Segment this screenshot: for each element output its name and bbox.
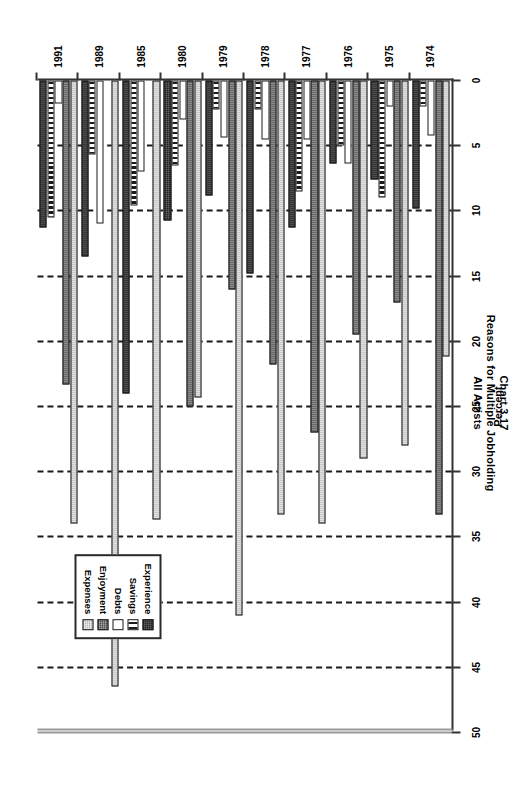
bar-1980-expenses (194, 80, 201, 397)
bar-1989-savings (88, 80, 95, 154)
value-tick-45 (451, 666, 460, 668)
bar-1977-enjoyment (310, 80, 317, 432)
bar-1974-expenses (442, 80, 449, 356)
bar-1991-expenses (70, 80, 77, 523)
value-tick-label-45: 45 (470, 661, 481, 672)
year-group-1976: 1976 (327, 80, 368, 728)
bar-1976-experience (329, 80, 336, 163)
legend-swatch-expenses (82, 619, 93, 630)
bar-1978-debts (261, 80, 268, 139)
category-label-1975: 1975 (383, 45, 394, 67)
figure: Chart 3.17 Reasons for Multiple Jobholdi… (0, 0, 515, 805)
legend-item-debts: Debts (112, 563, 123, 630)
value-tick-label-25: 25 (470, 400, 481, 411)
year-group-1991: 1991 (37, 80, 78, 728)
bar-1976-enjoyment (352, 80, 359, 334)
year-group-1980: 1980 (161, 80, 202, 728)
value-tick-label-15: 15 (470, 270, 481, 281)
bar-1978-enjoyment (269, 80, 276, 364)
bar-1976-expenses (359, 80, 366, 458)
bar-1974-debts (427, 80, 434, 135)
bar-1979-enjoyment (228, 80, 235, 289)
bar-1980-savings (171, 80, 178, 165)
bar-1985-expenses (152, 80, 159, 519)
category-label-1985: 1985 (135, 45, 146, 67)
category-tick-1985 (118, 72, 120, 80)
bar-1989-experience (81, 80, 88, 256)
category-label-1979: 1979 (218, 45, 229, 67)
legend-item-savings: Savings (127, 563, 138, 630)
legend-label-debts: Debts (112, 587, 123, 613)
bar-1985-savings (130, 80, 137, 205)
bar-1974-savings (419, 80, 426, 106)
bar-1977-experience (288, 80, 295, 227)
legend-label-savings: Savings (127, 577, 138, 613)
chart-page: Chart 3.17 Reasons for Multiple Jobholdi… (0, 0, 515, 805)
value-tick-25 (451, 405, 460, 407)
bar-1979-expenses (235, 80, 242, 615)
value-tick-10 (451, 209, 460, 211)
year-group-1974: 1974 (410, 80, 451, 728)
value-tick-15 (451, 275, 460, 277)
bar-1975-expenses (401, 80, 408, 445)
category-label-1978: 1978 (259, 45, 270, 67)
value-tick-label-5: 5 (470, 142, 481, 148)
bar-1991-enjoyment (62, 80, 69, 384)
value-tick-label-20: 20 (470, 335, 481, 346)
category-tick-1975 (366, 72, 368, 80)
value-tick-label-35: 35 (470, 531, 481, 542)
value-tick-label-10: 10 (470, 205, 481, 216)
bar-1975-debts (386, 80, 393, 106)
year-group-1975: 1975 (368, 80, 409, 728)
category-tick-1977 (283, 72, 285, 80)
bar-1979-experience (205, 80, 212, 195)
bar-1991-debts (54, 80, 61, 103)
bar-1977-debts (303, 80, 310, 139)
bar-1976-debts (344, 80, 351, 163)
category-label-1991: 1991 (52, 45, 63, 67)
bar-1989-debts (96, 80, 103, 223)
legend-item-experience: Experience (142, 563, 153, 630)
legend-label-experience: Experience (142, 563, 153, 614)
bar-1979-savings (212, 80, 219, 109)
bar-1980-experience (163, 80, 170, 220)
year-group-1978: 1978 (244, 80, 285, 728)
legend-label-expenses: Expenses (82, 569, 93, 613)
rotation-wrapper: Chart 3.17 Reasons for Multiple Jobholdi… (0, 0, 515, 805)
bar-1975-savings (378, 80, 385, 197)
legend-item-enjoyment: Enjoyment (97, 563, 108, 630)
value-tick-50 (451, 731, 460, 733)
category-tick-1979 (201, 72, 203, 80)
value-tick-label-40: 40 (470, 596, 481, 607)
year-group-1977: 1977 (285, 80, 326, 728)
bar-1978-experience (246, 80, 253, 273)
bar-1978-savings (254, 80, 261, 109)
category-label-1980: 1980 (176, 45, 187, 67)
value-tick-35 (451, 535, 460, 537)
bar-1976-savings (337, 80, 344, 145)
bar-1974-enjoyment (435, 80, 442, 514)
bar-1980-debts (179, 80, 186, 119)
category-tick-1976 (325, 72, 327, 80)
bar-1991-savings (47, 80, 54, 217)
category-label-1989: 1989 (94, 45, 105, 67)
legend-label-enjoyment: Enjoyment (97, 565, 108, 614)
bar-1975-experience (370, 80, 377, 179)
legend-swatch-debts (112, 619, 123, 630)
category-label-1974: 1974 (425, 45, 436, 67)
bar-1977-savings (295, 80, 302, 191)
legend-swatch-experience (142, 619, 153, 630)
bar-1980-enjoyment (186, 80, 193, 406)
value-axis-title: Percent (491, 386, 503, 426)
value-tick-30 (451, 470, 460, 472)
value-tick-0 (451, 79, 460, 81)
value-tick-label-50: 50 (470, 726, 481, 737)
bar-1979-debts (220, 80, 227, 137)
bar-1978-expenses (277, 80, 284, 514)
bar-1991-experience (39, 80, 46, 227)
category-tick-1978 (242, 72, 244, 80)
legend-swatch-enjoyment (97, 619, 108, 630)
category-tick-1980 (159, 72, 161, 80)
value-tick-5 (451, 144, 460, 146)
category-label-1977: 1977 (301, 45, 312, 67)
